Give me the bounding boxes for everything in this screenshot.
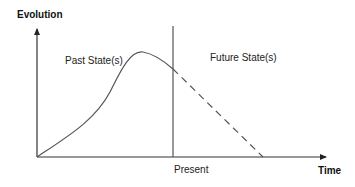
x-axis-label: Time — [318, 166, 341, 176]
future-state-label: Future State(s) — [210, 53, 277, 63]
past-state-label: Past State(s) — [65, 56, 123, 66]
evolution-diagram — [0, 0, 355, 187]
past-state-curve — [37, 52, 173, 157]
present-label: Present — [174, 165, 208, 175]
y-axis-label: Evolution — [17, 10, 63, 20]
future-projection-dashed-line — [173, 69, 263, 157]
